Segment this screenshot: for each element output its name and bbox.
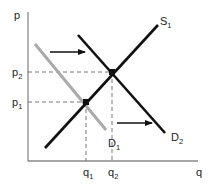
equilibrium-point-new — [109, 69, 115, 75]
price-label-p1: p1 — [12, 96, 22, 111]
supply-label: S1 — [160, 15, 172, 30]
demand-d1-label: D1 — [108, 137, 120, 152]
quantity-label-q2: q2 — [108, 166, 118, 181]
demand-curve-d1 — [35, 44, 106, 130]
demand-curve-d2 — [78, 35, 165, 133]
y-axis-label: p — [14, 9, 20, 21]
demand-d2-label: D2 — [171, 131, 183, 146]
x-axis-label: q — [196, 166, 202, 178]
supply-curve-s1 — [45, 25, 158, 148]
quantity-label-q1: q1 — [83, 166, 93, 181]
price-label-p2: p2 — [12, 66, 22, 81]
equilibrium-point-initial — [83, 99, 89, 105]
supply-demand-diagram: p q S1 D1 D2 p2 p1 q1 q2 — [0, 0, 212, 190]
